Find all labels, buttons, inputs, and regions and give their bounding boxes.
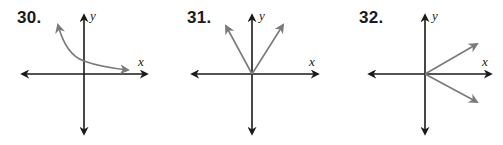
curve: [58, 25, 128, 70]
coordinate-graph: y x: [0, 0, 168, 145]
lower-ray: [425, 74, 477, 102]
problem-32: 32. y x: [336, 0, 503, 145]
y-axis-label: y: [88, 8, 96, 23]
coordinate-graph: y x: [168, 0, 336, 145]
x-axis-label: x: [308, 54, 315, 69]
problem-30: 30. y x: [0, 0, 168, 145]
upper-ray: [425, 44, 477, 74]
left-ray: [226, 26, 252, 74]
problem-31: 31. y x: [168, 0, 336, 145]
y-axis-label: y: [430, 8, 438, 23]
x-axis-label: x: [137, 54, 144, 69]
right-ray: [252, 25, 283, 74]
coordinate-graph: y x: [336, 0, 503, 145]
y-axis-label: y: [257, 8, 265, 23]
x-axis-label: x: [481, 54, 488, 69]
